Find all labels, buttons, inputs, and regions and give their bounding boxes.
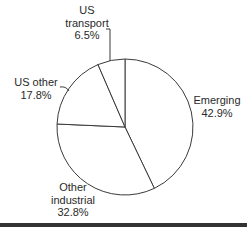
label-other-industrial: Other industrial 32.8% xyxy=(36,181,110,219)
bottom-rule xyxy=(0,223,247,227)
label-text: Other xyxy=(36,181,110,194)
label-us-other: US other 17.8% xyxy=(6,76,66,101)
label-text: Emerging xyxy=(186,94,247,107)
label-us-transport: US transport 6.5% xyxy=(52,4,122,42)
label-value: 17.8% xyxy=(6,89,66,102)
label-text: US other xyxy=(6,76,66,89)
label-text: transport xyxy=(52,17,122,30)
label-value: 32.8% xyxy=(36,206,110,219)
label-value: 42.9% xyxy=(186,107,247,120)
label-value: 6.5% xyxy=(52,29,122,42)
label-text: industrial xyxy=(36,194,110,207)
label-emerging: Emerging 42.9% xyxy=(186,94,247,119)
label-text: US xyxy=(52,4,122,17)
